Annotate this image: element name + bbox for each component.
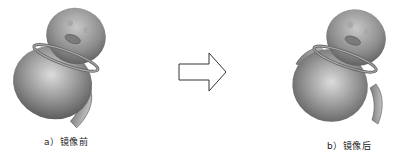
before-caption: a）镜像前 bbox=[44, 135, 88, 148]
after-model-image bbox=[280, 0, 393, 135]
after-caption: b）镜像后 bbox=[327, 139, 371, 152]
before-model-image bbox=[0, 0, 140, 135]
arrow-right-icon bbox=[178, 52, 228, 92]
